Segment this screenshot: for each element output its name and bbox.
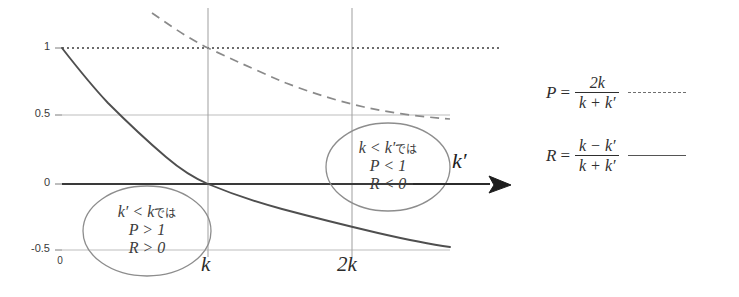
left-callout-line-3-math: R > 0 [129,239,166,256]
left-callout-text: k′ < kでは P > 1 R > 0 [87,203,207,257]
legend-r-numerator: k − k′ [575,137,620,155]
left-callout-line-1-jp: では [154,207,176,220]
right-callout-line-1: k < k′では [328,139,448,157]
y-tick-label-minus-0-5: -0.5 [10,242,50,254]
figure-root: 1 0.5 0 -0.5 0 k 2k k′ k′ < kでは P > 1 R … [0,0,739,297]
right-callout-line-2-math: P < 1 [370,157,406,174]
legend-p-lhs: P [546,83,556,103]
legend-formula-p: P = 2k k + k′ [546,74,619,112]
right-callout-line-1-jp: では [395,143,417,156]
legend-r-equals: = [560,146,570,166]
left-callout-line-1: k′ < kでは [87,203,207,221]
legend-p-numerator: 2k [586,74,609,92]
left-callout-line-2-math: P > 1 [129,221,165,238]
curve-p-dashed [152,13,450,119]
x-tick-label-origin: 0 [50,255,70,266]
legend-r-lhs: R [546,146,556,166]
legend-r-denominator: k + k′ [575,156,620,174]
y-tick-label-1: 1 [20,40,50,52]
legend-p-line-sample [628,92,686,93]
legend-r-fraction: k − k′ k + k′ [575,137,620,175]
left-callout-line-2: P > 1 [87,221,207,239]
x-tick-label-2k: 2k [337,252,357,277]
legend-p-fraction: 2k k + k′ [575,74,620,112]
right-callout-line-3: R < 0 [328,175,448,193]
right-callout-line-2: P < 1 [328,157,448,175]
legend-p-equals: = [560,83,570,103]
y-tick-label-0-5: 0.5 [14,107,50,119]
legend-entry-p: P = 2k k + k′ [546,74,686,112]
legend-r-line-sample [628,155,686,156]
left-callout-line-3: R > 0 [87,239,207,257]
right-callout-line-1-math: k < k′ [359,139,396,156]
y-tick-label-0: 0 [20,176,50,188]
right-callout-text: k < k′では P < 1 R < 0 [328,139,448,193]
x-axis-arrow-head [489,176,511,193]
right-callout-line-3-math: R < 0 [370,175,407,192]
legend-p-denominator: k + k′ [575,93,620,111]
legend-entry-r: R = k − k′ k + k′ [546,137,686,175]
left-callout-line-1-math: k′ < k [118,203,155,220]
x-axis-name-label: k′ [452,148,467,174]
legend-formula-r: R = k − k′ k + k′ [546,137,619,175]
